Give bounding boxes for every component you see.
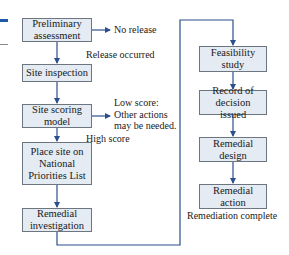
box-preliminary-assessment: Preliminary assessment bbox=[22, 18, 92, 42]
box-site-scoring-model: Site scoring model bbox=[22, 104, 92, 128]
label-no-release: No release bbox=[114, 24, 156, 36]
box-record-of-decision: Record of decision issued bbox=[199, 90, 267, 115]
label-remediation-complete: Remediation complete bbox=[187, 210, 277, 222]
box-remedial-action: Remedial action bbox=[199, 184, 267, 209]
box-national-priorities-list: Place site on National Priorities List bbox=[22, 142, 92, 185]
box-remedial-investigation: Remedial investigation bbox=[22, 208, 92, 232]
label-low-score: Low score: Other actions may be needed. bbox=[114, 97, 176, 132]
label-release-occurred: Release occurred bbox=[86, 49, 155, 61]
box-remedial-design: Remedial design bbox=[199, 137, 267, 162]
box-site-inspection: Site inspection bbox=[22, 64, 92, 82]
box-feasibility-study: Feasibility study bbox=[199, 46, 267, 72]
label-high-score: High score bbox=[86, 133, 130, 145]
